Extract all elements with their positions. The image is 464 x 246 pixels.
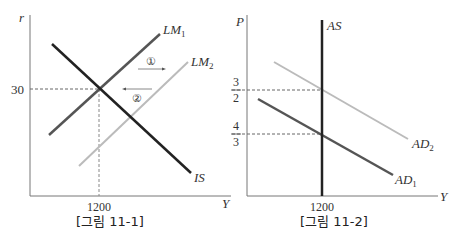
label-is: IS <box>193 170 205 185</box>
curve-is <box>52 44 191 173</box>
x-axis-label-y: Y <box>440 189 449 204</box>
y-tick-3-2-num: 3 <box>233 75 239 89</box>
x-tick-1200: 1200 <box>87 200 111 214</box>
curve-lm1 <box>49 34 160 135</box>
caption-figure-11-2: [그림 11-2] <box>300 214 368 229</box>
curve-ad1 <box>258 99 393 175</box>
label-as: AS <box>326 18 342 33</box>
y-tick-30: 30 <box>11 82 24 97</box>
caption-figure-11-1: [그림 11-1] <box>76 214 144 229</box>
y-axis-label-r: r <box>19 10 25 25</box>
label-ad1: AD1 <box>394 172 417 189</box>
y-axis-label-p: P <box>235 14 244 29</box>
chart-is-lm: r 30 1200 Y LM1 LM2 IS ① ② [그림 11-1] <box>11 10 231 229</box>
y-tick-4-3-num: 4 <box>233 119 239 133</box>
annotation-2: ② <box>132 92 142 104</box>
y-tick-3-2-den: 2 <box>233 91 239 105</box>
x-axis-label-y: Y <box>222 196 231 211</box>
y-tick-4-3-den: 3 <box>233 135 239 149</box>
label-ad2: AD2 <box>411 136 434 153</box>
label-lm1: LM1 <box>162 22 186 39</box>
annotation-1: ① <box>146 55 156 67</box>
shift-arrow-1-head <box>162 68 166 71</box>
chart-ad-as: P 3 2 4 3 1200 Y AS AD2 AD1 [그림 11-2] <box>231 14 449 229</box>
x-tick-1200: 1200 <box>310 200 334 214</box>
figure-canvas: r 30 1200 Y LM1 LM2 IS ① ② [그림 11-1] P 3… <box>0 0 464 246</box>
curve-lm2 <box>79 62 188 166</box>
label-lm2: LM2 <box>190 54 214 71</box>
shift-arrow-2-head <box>122 88 126 91</box>
curve-ad2 <box>274 62 408 139</box>
